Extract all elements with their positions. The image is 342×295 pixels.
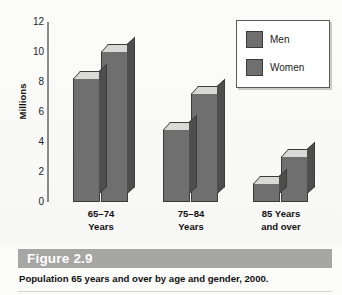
bottom-divider bbox=[18, 291, 332, 292]
x-group-label-line: and over bbox=[238, 221, 324, 234]
chart-legend: Men Women bbox=[236, 20, 330, 88]
legend-item-women: Women bbox=[246, 59, 304, 76]
y-tick-label: 0 bbox=[26, 196, 44, 207]
x-group-label-2: 75–84Years bbox=[148, 208, 234, 233]
x-group-label-line: 65–74 bbox=[58, 208, 144, 221]
x-group-label-line: 85 Years bbox=[238, 208, 324, 221]
x-group-label-line: Years bbox=[148, 221, 234, 234]
figure-number-label: Figure 2.9 bbox=[27, 251, 93, 266]
figure-container: 024681012 Millions 65–74Years75–84Years8… bbox=[0, 0, 342, 295]
y-tick-label: 6 bbox=[26, 106, 44, 117]
bar-side-face bbox=[99, 63, 107, 193]
y-tick-label: 8 bbox=[26, 76, 44, 87]
bar-men-3 bbox=[253, 183, 280, 203]
y-tick-label: 4 bbox=[26, 136, 44, 147]
legend-swatch-men bbox=[246, 31, 263, 48]
figure-number-band: Figure 2.9 bbox=[18, 249, 332, 268]
legend-label-women: Women bbox=[270, 62, 304, 73]
legend-swatch-women bbox=[246, 59, 263, 76]
bar-side-face bbox=[189, 114, 197, 193]
y-axis-line bbox=[47, 22, 49, 202]
x-group-label-line: 75–84 bbox=[148, 208, 234, 221]
bar-men-2 bbox=[163, 129, 190, 203]
bar-side-face bbox=[307, 141, 315, 193]
bar-side-face bbox=[127, 36, 135, 193]
y-tick-label: 10 bbox=[26, 46, 44, 57]
chart-plot-area: 024681012 Millions 65–74Years75–84Years8… bbox=[0, 0, 342, 245]
legend-label-men: Men bbox=[270, 34, 289, 45]
figure-caption-text: Population 65 years and over by age and … bbox=[19, 273, 329, 284]
y-tick-label: 2 bbox=[26, 166, 44, 177]
bar-side-face bbox=[217, 78, 225, 193]
x-group-label-line: Years bbox=[58, 221, 144, 234]
bar-men-1 bbox=[73, 78, 100, 203]
y-tick-label: 12 bbox=[26, 16, 44, 27]
legend-item-men: Men bbox=[246, 31, 289, 48]
y-axis-title: Millions bbox=[17, 76, 28, 128]
x-group-label-1: 65–74Years bbox=[58, 208, 144, 233]
x-group-label-3: 85 Yearsand over bbox=[238, 208, 324, 233]
